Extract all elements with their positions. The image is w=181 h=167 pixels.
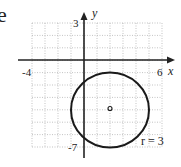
panel-label: e [0,2,7,27]
x-axis-arrow-icon [167,57,175,64]
x-tick-max: 6 [157,66,163,78]
grid-lines [32,23,162,147]
y-tick-max: 3 [73,17,79,29]
radius-annotation: r = 3 [141,134,164,148]
x-tick-min: -4 [22,66,32,78]
center-point [108,107,112,111]
y-axis-arrow-icon [81,12,88,20]
circle-graph: e -4 6 3 -7 x y r = 3 [0,0,181,167]
y-tick-min: -7 [68,141,78,153]
y-axis-label: y [91,6,98,20]
x-axis-label: x [167,64,174,78]
